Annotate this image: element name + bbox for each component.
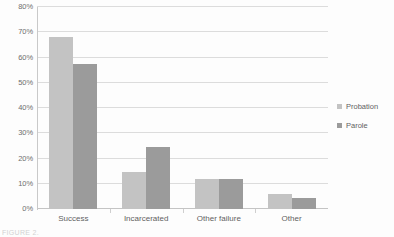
legend-item[interactable]: Probation	[337, 100, 394, 113]
chart-legend: ProbationParole	[337, 100, 394, 138]
x-axis-label: Other	[255, 213, 328, 224]
bar	[122, 172, 146, 209]
legend-label: Parole	[346, 121, 368, 130]
legend-label: Probation	[346, 102, 378, 111]
bar	[146, 147, 170, 209]
y-tick-label: 60%	[3, 54, 33, 62]
bar-group	[110, 7, 183, 209]
bar	[73, 64, 97, 209]
y-tick-label: 10%	[3, 180, 33, 188]
y-tick-label: 70%	[3, 28, 33, 36]
bar	[292, 198, 316, 209]
y-axis-labels: 0%10%20%30%40%50%60%70%80%	[0, 0, 33, 237]
x-axis-label: Success	[37, 213, 110, 224]
bar-group	[37, 7, 110, 209]
bar-chart: 0%10%20%30%40%50%60%70%80% SuccessIncarc…	[0, 0, 394, 237]
y-tick-label: 80%	[3, 3, 33, 11]
y-tick-label: 0%	[3, 205, 33, 213]
y-tick-label: 20%	[3, 155, 33, 163]
bar-group	[183, 7, 256, 209]
x-axis-labels: SuccessIncarceratedOther failureOther	[37, 213, 328, 229]
y-tick-label: 50%	[3, 79, 33, 87]
x-axis-label: Other failure	[183, 213, 256, 224]
bar	[219, 179, 243, 209]
bar	[49, 37, 73, 209]
legend-swatch-icon	[337, 104, 342, 109]
caption-fragment: FIGURE 2.	[2, 229, 39, 237]
y-tick-label: 30%	[3, 129, 33, 137]
bar	[195, 179, 219, 209]
bar-group	[255, 7, 328, 209]
legend-swatch-icon	[337, 123, 342, 128]
x-axis-label: Incarcerated	[110, 213, 183, 224]
legend-item[interactable]: Parole	[337, 119, 394, 132]
y-tick-label: 40%	[3, 104, 33, 112]
bars-layer	[37, 7, 328, 209]
bar	[268, 194, 292, 209]
